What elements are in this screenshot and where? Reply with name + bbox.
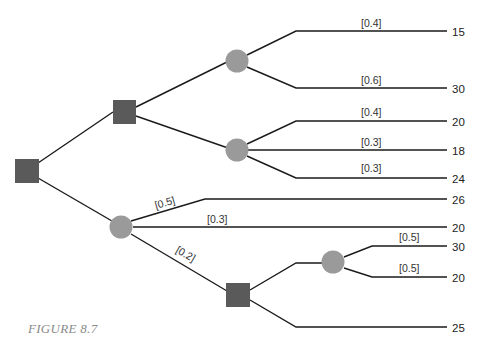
edge-d2-chance-d (250, 263, 322, 290)
prob-a-1: [0.4] (361, 17, 382, 29)
payoff-d-2: 20 (452, 272, 465, 284)
edge-a-15 (247, 31, 447, 55)
payoff-b-2: 18 (452, 145, 465, 157)
prob-d-1: [0.5] (399, 231, 420, 243)
edge-b-20 (247, 121, 447, 144)
edge-c-26 (131, 199, 447, 221)
chance-node-b (226, 139, 249, 162)
prob-b-1: [0.4] (361, 106, 382, 118)
payoff-c-2: 20 (452, 222, 465, 234)
decision-tree-diagram: [0.4] [0.6] [0.4] [0.3] [0.3] [0.5] [0.3… (0, 0, 479, 348)
payoff-a-2: 30 (452, 83, 465, 95)
decision-node-1 (113, 100, 136, 124)
probability-labels: [0.4] [0.6] [0.4] [0.3] [0.3] [0.5] [0.3… (153, 17, 419, 274)
edge-c-d2 (131, 234, 227, 291)
edge-d-20 (344, 268, 447, 277)
chance-node-d (322, 251, 345, 274)
edge-b-24 (247, 156, 447, 178)
payoff-d2-1: 25 (452, 322, 465, 334)
prob-c-2: [0.3] (207, 213, 228, 225)
prob-b-3: [0.3] (361, 162, 382, 174)
payoff-c-1: 26 (452, 194, 465, 206)
edge-a-30 (247, 67, 447, 88)
payoff-a-1: 15 (452, 26, 465, 38)
edge-d1-chance-b (136, 116, 228, 148)
chance-node-c (110, 216, 133, 239)
edge-d-30 (344, 246, 447, 257)
payoff-b-1: 20 (452, 116, 465, 128)
prob-a-2: [0.6] (361, 74, 382, 86)
prob-b-2: [0.3] (361, 136, 382, 148)
chance-node-a (226, 50, 249, 73)
tree-edges (38, 31, 447, 327)
prob-d-2: [0.5] (399, 262, 420, 274)
figure-caption: FIGURE 8.7 (28, 321, 97, 337)
payoff-b-3: 24 (452, 173, 465, 185)
root-decision-node (15, 159, 39, 183)
edge-d2-25 (250, 300, 447, 327)
payoff-labels: 15 30 20 18 24 26 20 30 20 25 (452, 26, 465, 334)
payoff-d-1: 30 (452, 241, 465, 253)
edge-root-d1 (38, 112, 113, 163)
decision-node-2 (226, 283, 250, 307)
edge-root-chance-c (38, 178, 112, 221)
edge-d1-chance-a (136, 62, 227, 107)
